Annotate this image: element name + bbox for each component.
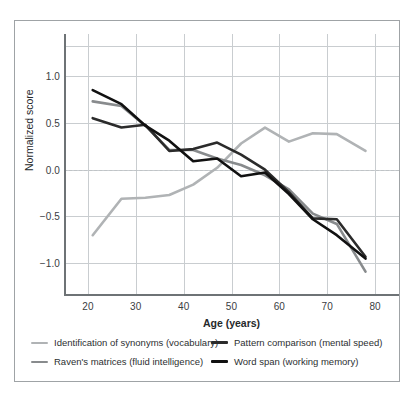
legend-item[interactable]: Word span (working memory) [211, 356, 391, 367]
y-tick-label: 0.0 [26, 164, 60, 175]
x-tick-label: 40 [167, 301, 201, 312]
legend-item[interactable]: Pattern comparison (mental speed) [211, 337, 391, 348]
legend-item[interactable]: Identification of synonyms (vocabulary) [31, 337, 211, 348]
legend-label: Identification of synonyms (vocabulary) [54, 337, 218, 348]
x-tick-label: 20 [71, 301, 105, 312]
series-lines [64, 34, 399, 296]
x-axis-label: Age (years) [64, 317, 399, 329]
x-tick-label: 70 [310, 301, 344, 312]
y-tick-label: 1.0 [26, 71, 60, 82]
plot-area [64, 34, 399, 296]
legend-swatch-icon [31, 342, 48, 344]
legend-label: Word span (working memory) [234, 356, 358, 367]
y-tick-label: −1.0 [26, 258, 60, 269]
legend-label: Pattern comparison (mental speed) [234, 337, 382, 348]
x-tick-label: 50 [215, 301, 249, 312]
legend-label: Raven's matrices (fluid intelligence) [54, 356, 203, 367]
legend-item[interactable]: Raven's matrices (fluid intelligence) [31, 356, 211, 367]
legend-swatch-icon [31, 361, 48, 363]
legend-swatch-icon [211, 360, 228, 363]
y-tick-label: −0.5 [26, 211, 60, 222]
x-tick-label: 60 [262, 301, 296, 312]
chart-legend: Identification of synonyms (vocabulary)P… [31, 333, 391, 371]
y-tick-label: 0.5 [26, 117, 60, 128]
series-line [93, 118, 366, 256]
legend-swatch-icon [211, 341, 228, 344]
x-tick-label: 30 [119, 301, 153, 312]
y-axis-label: Normalized score [23, 89, 35, 171]
chart-figure: Normalized score Age (years) 1.00.50.0−0… [14, 20, 400, 382]
x-tick-label: 80 [358, 301, 392, 312]
series-line [93, 90, 366, 258]
